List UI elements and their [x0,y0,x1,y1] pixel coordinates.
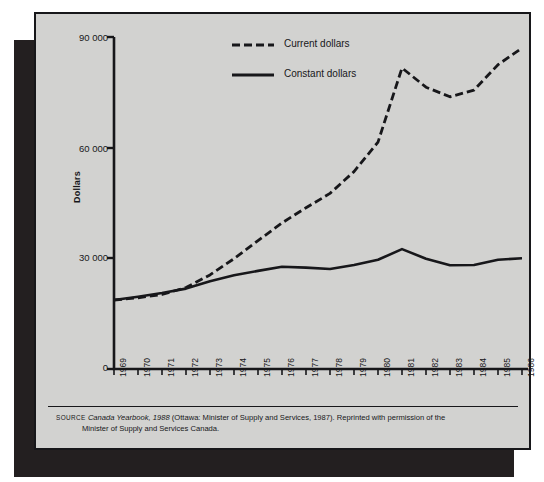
x-tick-1973: 1973 [214,358,224,377]
x-tick-1970: 1970 [142,358,152,377]
x-tick-1982: 1982 [430,358,440,377]
source-prefix-label: SOURCE [56,414,86,421]
source-line-two: Minister of Supply and Services Canada. [56,423,514,434]
source-rest: (Ottawa: Minister of Supply and Services… [170,413,446,422]
x-tick-1977: 1977 [310,358,320,377]
x-tick-1981: 1981 [406,358,416,377]
x-tick-1980: 1980 [382,358,392,377]
x-tick-1975: 1975 [262,358,272,377]
x-tick-1978: 1978 [334,358,344,377]
source-note: SOURCE Canada Yearbook, 1988 (Ottawa: Mi… [56,412,514,434]
x-tick-1971: 1971 [166,358,176,377]
figure-page: Dollars 90 000 60 000 30 000 0 Current d… [0,0,544,482]
axis-lines [114,37,528,369]
x-tick-1984: 1984 [478,358,488,377]
x-tick-1969: 1969 [118,358,128,377]
x-tick-1979: 1979 [358,358,368,377]
chart-figure-panel: Dollars 90 000 60 000 30 000 0 Current d… [34,12,531,450]
series-line-current-dollars [114,48,522,300]
x-tick-1983: 1983 [454,358,464,377]
source-divider-rule [48,406,518,407]
x-tick-1976: 1976 [286,358,296,377]
x-tick-1972: 1972 [190,358,200,377]
chart-svg [36,14,529,408]
series-line-constant-dollars [114,249,522,300]
plot-area: Dollars 90 000 60 000 30 000 0 Current d… [36,14,529,408]
source-title: Canada Yearbook, 1988 [88,413,170,422]
x-tick-1986: 1986 [526,358,536,377]
x-tick-1974: 1974 [238,358,248,377]
x-tick-1985: 1985 [502,358,512,377]
